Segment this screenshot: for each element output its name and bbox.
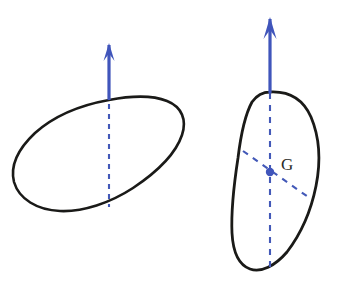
upright-oval-blob-outline xyxy=(232,92,319,270)
physics-diagram-svg: G xyxy=(0,0,342,289)
tilted-oval-blob-outline xyxy=(13,97,184,211)
figure-canvas: G xyxy=(0,0,342,289)
centroid-dot xyxy=(266,168,274,176)
centroid-label-g: G xyxy=(281,155,293,174)
left-panel xyxy=(13,43,184,211)
right-panel: G xyxy=(232,17,319,272)
oblique-centroidal-axis-dashed xyxy=(243,151,311,199)
